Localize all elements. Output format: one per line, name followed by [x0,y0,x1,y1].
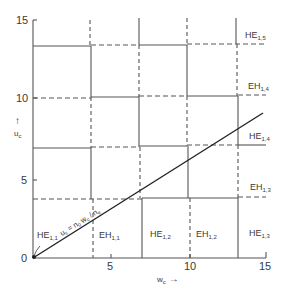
y-axis-label: uc [14,129,21,139]
mode-diagram: 15 10 5 0 5 10 15 ↑ uc wc→ HE1,1 uc = n0… [0,0,283,290]
y-axis-arrow: ↑ [15,115,20,126]
region-label-he12: HE1,2 [150,229,172,240]
y-tick-5: 5 [21,174,27,186]
y-tick-0: 0 [21,252,27,264]
line-mode-label: HE1,1 [37,230,59,241]
y-tick-15: 15 [16,14,28,26]
line-equation: uc = n0 wc / ne [58,206,102,238]
region-label-eh13: EH1,3 [250,182,272,193]
x-axis-label: wc→ [156,273,179,285]
dispersion-line [33,113,263,258]
x-tick-5: 5 [107,260,113,272]
region-label-he14: HE1,4 [249,131,271,142]
region-label-eh14: EH1,4 [248,81,270,92]
region-label-eh11: EH1,1 [99,230,121,241]
y-tick-10: 10 [16,92,28,104]
mode-boundary-grid [33,18,266,258]
region-label-he15: HE1,5 [245,30,267,41]
x-tick-10: 10 [184,260,196,272]
x-tick-15: 15 [259,260,271,272]
region-label-he13: HE1,3 [249,228,271,239]
region-label-eh12: EH1,2 [196,229,218,240]
